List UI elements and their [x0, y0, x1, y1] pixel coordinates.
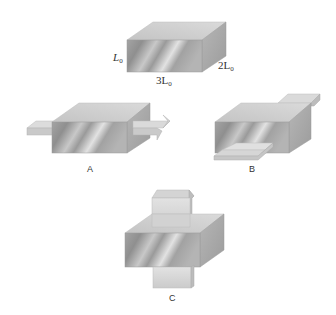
panel-c: C [125, 190, 224, 303]
reference-box: L0 3L0 2L0 [112, 22, 234, 88]
caption-a: A [87, 164, 93, 174]
plate-upper-tip [152, 190, 194, 198]
panel-a: A [27, 103, 170, 174]
plate-front-ramp [214, 150, 265, 156]
plate-upper-through [152, 214, 190, 227]
label-height: L0 [112, 51, 123, 65]
panel-b: B [214, 94, 320, 174]
figure-canvas: L0 3L0 2L0 A B [0, 0, 336, 315]
label-length: 3L0 [156, 74, 172, 88]
box-front-face [127, 40, 202, 72]
caption-c: C [169, 293, 176, 303]
label-depth: 2L0 [218, 59, 234, 73]
plate-right-top [133, 121, 170, 128]
box-c-front-face [125, 233, 200, 267]
caption-b: B [249, 164, 255, 174]
plate-lower-side [191, 265, 194, 288]
box-a-front-face [52, 122, 127, 153]
plate-left-front [27, 128, 53, 135]
plate-lower-front [153, 267, 191, 288]
